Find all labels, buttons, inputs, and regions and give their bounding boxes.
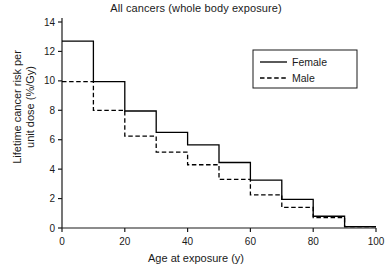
x-tick-label: 60 bbox=[245, 236, 257, 247]
chart-figure: All cancers (whole body exposure) Lifeti… bbox=[0, 0, 392, 278]
y-axis-ticks: 02468101214 bbox=[44, 17, 62, 234]
y-tick-label: 6 bbox=[49, 134, 55, 145]
legend-label-female: Female bbox=[292, 56, 327, 68]
y-tick-label: 14 bbox=[44, 17, 56, 28]
x-tick-label: 40 bbox=[182, 236, 194, 247]
y-tick-label: 2 bbox=[49, 193, 55, 204]
y-tick-label: 10 bbox=[44, 75, 56, 86]
y-tick-label: 12 bbox=[44, 46, 56, 57]
x-tick-label: 20 bbox=[119, 236, 131, 247]
x-tick-label: 100 bbox=[368, 236, 385, 247]
x-axis-ticks: 020406080100 bbox=[59, 228, 385, 247]
y-tick-label: 0 bbox=[49, 223, 55, 234]
chart-legend: FemaleMale bbox=[253, 50, 357, 88]
y-tick-label: 8 bbox=[49, 105, 55, 116]
x-tick-label: 0 bbox=[59, 236, 65, 247]
x-tick-label: 80 bbox=[308, 236, 320, 247]
legend-label-male: Male bbox=[292, 72, 315, 84]
plot-area: 02468101214 020406080100 FemaleMale bbox=[0, 0, 392, 278]
y-tick-label: 4 bbox=[49, 164, 55, 175]
